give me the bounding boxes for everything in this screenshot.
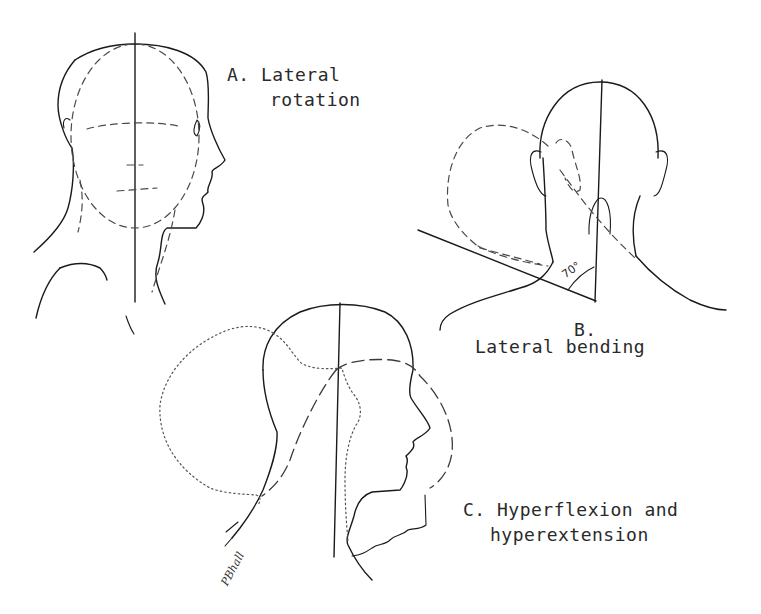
figure-c-flexion-face-dotted (273, 333, 360, 540)
figure-canvas: A. Lateral rotation 70° B. Lateral bendi… (0, 0, 761, 614)
figure-a-label-line1: A. Lateral (227, 66, 340, 84)
figure-b-bent-head-dashed (447, 125, 548, 264)
figure-c-flexion-dotted (160, 326, 273, 505)
figure-b-neck-right (633, 196, 640, 256)
figure-b-vertebra (589, 198, 611, 234)
figure-b-shoulder-left (440, 262, 553, 330)
figure-c-flexion-extension (160, 303, 453, 580)
figure-c-extension-throat (352, 495, 426, 556)
figure-a-clavicle (126, 316, 134, 334)
figure-c-label-line1: C. Hyperflexion and (463, 501, 678, 519)
figure-b-head-outline (540, 82, 658, 158)
figure-illustration (0, 0, 761, 614)
figure-a-eye-line (87, 123, 178, 129)
figure-a-ear-back (63, 118, 70, 128)
figure-a-back-head (34, 60, 75, 252)
figure-b-neck-left (543, 158, 553, 262)
figure-a-shoulder-left (36, 268, 60, 318)
figure-c-extension-dashed (336, 359, 452, 488)
figure-b-shoulder-right (636, 256, 726, 310)
figure-b-lateral-bending (418, 80, 726, 330)
figure-b-ear-dashed (556, 139, 580, 191)
figure-c-extension-back-dashed (262, 370, 336, 496)
figure-b-axis-line (595, 80, 602, 302)
figure-a-neck-dash-right (152, 210, 175, 292)
figure-b-ear-right (654, 151, 668, 196)
figure-a-head-outline (75, 44, 225, 304)
figure-a-lateral-rotation (34, 33, 225, 334)
figure-a-label-line2: rotation (270, 91, 361, 109)
figure-a-mouth-mark (117, 188, 157, 191)
figure-a-shoulder (60, 264, 107, 281)
figure-c-axis-line (334, 303, 340, 557)
figure-c-label-line2: hyperextension (490, 526, 649, 544)
figure-c-back-neck (232, 370, 277, 538)
figure-b-label-line2: Lateral bending (475, 338, 645, 356)
